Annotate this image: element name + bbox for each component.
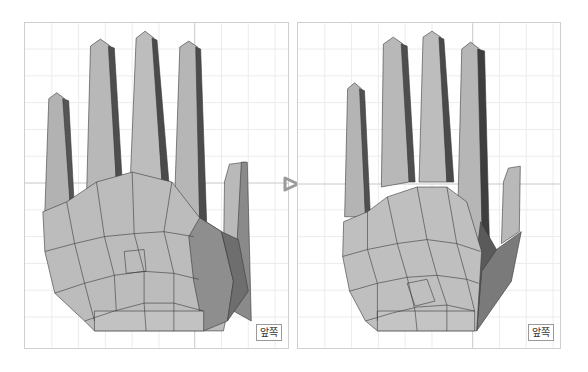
- view-label-front: 앞쪽: [256, 324, 282, 341]
- viewport-after[interactable]: 앞쪽: [297, 22, 561, 349]
- hand-mesh-before: [25, 23, 288, 348]
- hand-mesh-after: [298, 23, 560, 348]
- viewport-before[interactable]: 앞쪽: [24, 22, 289, 349]
- view-label-front: 앞쪽: [528, 324, 554, 341]
